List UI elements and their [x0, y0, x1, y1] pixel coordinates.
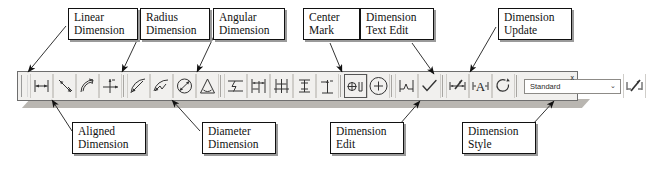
callout-line-1: Aligned [78, 125, 140, 138]
dimension-style-value: Standard [525, 82, 606, 91]
angular-dimension-button[interactable] [196, 74, 219, 98]
callout-line-1: Linear [74, 11, 132, 24]
callout-angular-dimension: Angular Dimension [213, 8, 285, 40]
svg-text:A: A [476, 79, 486, 94]
quick-dimension-button[interactable] [224, 74, 247, 98]
callout-line-2: Dimension [219, 24, 279, 37]
chevron-down-icon[interactable]: ⌄ [606, 82, 620, 90]
leader-dimension-update [470, 27, 496, 72]
dimension-toolbar[interactable]: A Standard ⌄ x [17, 71, 578, 101]
diameter-dimension-button[interactable] [173, 74, 196, 98]
callout-aligned-dimension: Aligned Dimension [72, 122, 146, 154]
jogged-dimension-button[interactable] [150, 74, 173, 98]
callout-line-2: Text Edit [366, 24, 428, 37]
callout-line-2: Dimension [74, 24, 132, 37]
arc-length-dimension-button[interactable] [76, 74, 99, 98]
callout-line-2: Dimension [146, 24, 204, 37]
callout-linear-dimension: Linear Dimension [68, 8, 138, 40]
dimension-edit-button[interactable] [446, 74, 469, 98]
baseline-dimension-button[interactable] [247, 74, 270, 98]
quick-leader-button[interactable] [293, 74, 316, 98]
linear-dimension-button[interactable] [30, 74, 53, 98]
toolbar-drag-grip[interactable] [21, 75, 28, 97]
callout-center-mark: Center Mark [303, 8, 360, 40]
toolbar-separator [442, 75, 445, 97]
leader-center-mark [330, 43, 342, 72]
inspection-button[interactable] [344, 74, 367, 98]
ordinate-dimension-button[interactable] [99, 74, 122, 98]
leader-linear-dimension [28, 26, 66, 72]
callout-diameter-dimension: Diameter Dimension [202, 122, 276, 154]
toolbar-separator [220, 75, 223, 97]
close-icon[interactable]: x [571, 74, 575, 81]
radius-dimension-button[interactable] [127, 74, 150, 98]
callout-dimension-text-edit: Dimension Text Edit [360, 8, 434, 40]
callout-line-1: Angular [219, 11, 279, 24]
callout-line-1: Dimension [468, 125, 530, 138]
callout-line-1: Center [309, 11, 354, 24]
leader-angular-dimension [197, 36, 214, 72]
callout-line-2: Update [504, 24, 566, 37]
leader-dimension-text-edit [412, 43, 434, 74]
callout-line-1: Dimension [504, 11, 566, 24]
toolbar-separator [391, 75, 394, 97]
continue-dimension-button[interactable] [270, 74, 293, 98]
jogged-linear-button[interactable] [395, 74, 418, 98]
callout-line-1: Radius [146, 11, 204, 24]
callout-dimension-style: Dimension Style [462, 122, 536, 154]
callout-line-1: Diameter [208, 125, 270, 138]
dimension-style-button[interactable] [623, 74, 646, 98]
callout-dimension-update: Dimension Update [498, 8, 572, 40]
toolbar-separator [123, 75, 126, 97]
callout-line-2: Dimension [208, 138, 270, 151]
dimension-override-button[interactable] [418, 74, 441, 98]
tolerance-button[interactable] [316, 74, 339, 98]
center-mark-button[interactable] [367, 74, 390, 98]
callout-line-2: Style [468, 138, 530, 151]
callout-dimension-edit: Dimension Edit [330, 122, 404, 154]
callout-line-2: Dimension [78, 138, 140, 151]
callout-line-2: Mark [309, 24, 354, 37]
toolbar-separator [340, 75, 343, 97]
aligned-dimension-button[interactable] [53, 74, 76, 98]
dimension-update-button[interactable] [492, 74, 515, 98]
callout-line-1: Dimension [336, 125, 398, 138]
callout-line-2: Edit [336, 138, 398, 151]
dimension-text-edit-button[interactable]: A [469, 74, 492, 98]
callout-radius-dimension: Radius Dimension [140, 8, 210, 40]
callout-line-1: Dimension [366, 11, 428, 24]
toolbar-separator [516, 75, 519, 97]
